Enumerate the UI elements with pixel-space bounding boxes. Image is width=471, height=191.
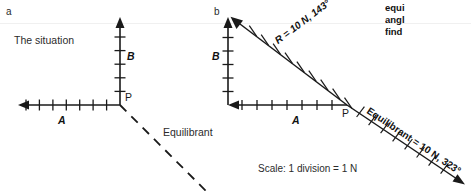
panel-a-equilibrant-line: [120, 105, 206, 191]
panel-a-letter: a: [6, 7, 12, 17]
side-text-line-2: angl: [385, 14, 471, 26]
panel-b-vector-b-label: B: [212, 51, 220, 62]
side-text-block: equi angl find: [385, 2, 471, 38]
side-text-line-3: find: [385, 26, 471, 38]
panel-b-vector-a-label: A: [292, 115, 300, 126]
panel-a-vector-a-label: A: [58, 115, 66, 126]
panel-b-point-p-label: P: [342, 108, 349, 119]
panel-a-caption: The situation: [14, 35, 74, 46]
panel-a-vector-a: [18, 100, 120, 111]
side-text-line-1: equi: [385, 2, 471, 14]
panel-b-vector-b: [223, 17, 234, 105]
scale-note: Scale: 1 division = 1 N: [258, 164, 357, 174]
panel-b-equilibrant-vector: [347, 105, 465, 184]
panel-a-vector-b: [115, 17, 126, 105]
panel-a-point-p-label: P: [125, 92, 132, 103]
panel-a-equilibrant-label: Equilibrant: [163, 127, 213, 138]
panel-b-graphic: [223, 17, 466, 185]
panel-b-letter: b: [214, 7, 220, 17]
panel-b-vector-a: [228, 100, 347, 110]
panel-a-vector-b-label: B: [127, 51, 135, 62]
